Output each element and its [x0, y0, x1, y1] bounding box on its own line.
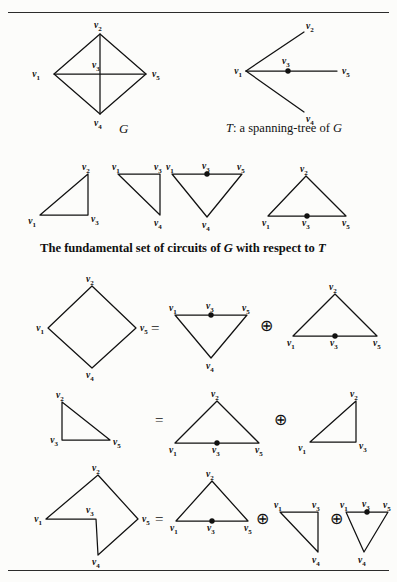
label-v5: v5: [342, 66, 350, 79]
label-v1: v1: [170, 523, 178, 536]
label-v5: v5: [242, 303, 250, 316]
graph-g-diamond: v2 v1 v3 v5 v4: [42, 16, 162, 126]
label-v4: v4: [358, 555, 366, 568]
equation-1-ringsum: ⊕: [260, 318, 273, 334]
triangle-outline: [310, 401, 356, 442]
caption-fs-t: T: [318, 241, 326, 255]
bottom-horizontal-rule: [8, 570, 389, 571]
label-v5: v5: [140, 323, 148, 336]
triangle-outline: [40, 174, 88, 215]
caption-fs-part-b: with respect to: [233, 241, 318, 255]
label-v5: v5: [152, 69, 160, 82]
equation-3-ringsum-1: ⊕: [256, 511, 269, 527]
label-v3: v3: [154, 162, 162, 175]
caption-spanning-tree: T: a spanning-tree of G: [226, 121, 342, 136]
label-v1: v1: [234, 66, 242, 79]
label-v1: v1: [340, 500, 348, 513]
label-v2: v2: [86, 274, 94, 287]
triangle-outline: [118, 174, 160, 215]
caption-t-text: : a spanning-tree of: [233, 121, 333, 135]
label-v3: v3: [91, 214, 99, 227]
figure-page: v2 v1 v3 v5 v4 G v2 v1 v3 v5 v4 T: a spa…: [0, 0, 397, 582]
label-v5: v5: [113, 437, 121, 450]
label-v2: v2: [306, 21, 314, 34]
label-v1: v1: [112, 162, 120, 175]
triangle-outline: [172, 174, 242, 217]
label-v3: v3: [330, 338, 338, 351]
node-dot-v3: [285, 68, 290, 73]
caption-fundamental-set: The fundamental set of circuits of G wit…: [40, 241, 326, 256]
caption-graph-g: G: [119, 121, 128, 137]
equation-3-term-1: v2 v1 v3 v5: [168, 469, 254, 543]
label-v3: v3: [282, 56, 290, 69]
label-v2: v2: [206, 469, 214, 482]
equation-3-term-3: v1 v3 v5 v4: [302, 498, 394, 568]
label-v1: v1: [169, 303, 177, 316]
label-v3: v3: [86, 505, 94, 518]
label-v2: v2: [350, 389, 358, 402]
equation-1-equals: =: [151, 321, 159, 336]
label-v4: v4: [94, 118, 102, 131]
label-v3: v3: [302, 218, 310, 231]
label-v3: v3: [206, 301, 214, 314]
label-v1: v1: [298, 443, 306, 456]
label-v4: v4: [154, 218, 162, 231]
label-v3: v3: [92, 60, 100, 73]
label-v5: v5: [244, 523, 252, 536]
label-v4: v4: [206, 361, 214, 374]
label-v4: v4: [202, 220, 210, 233]
triangle-outline: [268, 176, 346, 216]
label-v3: v3: [212, 445, 220, 458]
top-horizontal-rule: [8, 12, 389, 13]
label-v3: v3: [207, 523, 215, 536]
fundamental-circuit-1: v2 v1 v3: [30, 160, 112, 228]
caption-fs-g: G: [224, 241, 233, 255]
label-v5: v5: [142, 514, 150, 527]
equation-2-term-2: v2 v1 v3: [298, 387, 378, 459]
label-v2: v2: [329, 282, 337, 295]
caption-fs-part-a: The fundamental set of circuits of: [40, 241, 224, 255]
caption-t-symbol: T: [226, 121, 233, 135]
diamond-outline: [48, 286, 136, 368]
label-v3: v3: [202, 161, 210, 174]
label-v2: v2: [94, 20, 102, 33]
equation-2-ringsum: ⊕: [274, 412, 287, 428]
triangle-outline: [175, 401, 259, 443]
label-v1: v1: [262, 218, 270, 231]
equation-1-lhs-diamond: v2 v1 v5 v4: [38, 272, 148, 376]
triangle-outline: [176, 481, 248, 521]
equation-1-term-1: v1 v3 v5 v4: [167, 290, 257, 368]
equation-1-term-2: v2 v1 v3 v5: [283, 280, 387, 360]
label-v1: v1: [169, 445, 177, 458]
label-v5: v5: [255, 445, 263, 458]
equation-2-equals: =: [155, 413, 163, 428]
spanning-tree-t: v2 v1 v3 v5 v4: [232, 16, 362, 126]
label-v1: v1: [166, 162, 174, 175]
triangle-outline: [346, 512, 388, 552]
edge-v1-v4: [246, 71, 304, 112]
equation-2-term-1: v2 v1 v3 v5: [165, 387, 269, 459]
label-v5: v5: [373, 338, 381, 351]
label-v5: v5: [237, 162, 245, 175]
label-v2: v2: [82, 162, 90, 175]
label-v5: v5: [342, 218, 350, 231]
label-v3: v3: [359, 441, 367, 454]
equation-3-equals: =: [155, 512, 163, 527]
label-v1: v1: [28, 216, 36, 229]
equation-2-lhs-triangle: v2 v3 v5: [42, 388, 122, 454]
fundamental-circuit-4: v2 v1 v3 v5: [258, 160, 358, 230]
label-v3: v3: [362, 499, 370, 512]
label-v5: v5: [383, 500, 391, 513]
triangle-outline: [175, 315, 247, 358]
label-v4: v4: [92, 557, 100, 570]
label-v2: v2: [300, 164, 308, 177]
label-v2: v2: [56, 390, 64, 403]
fundamental-circuit-3: v1 v3 v5 v4: [164, 160, 250, 230]
label-v2: v2: [92, 463, 100, 476]
label-v2: v2: [211, 389, 219, 402]
triangle-outline: [293, 294, 377, 336]
label-v1: v1: [36, 323, 44, 336]
label-v1: v1: [287, 338, 295, 351]
label-v1: v1: [34, 514, 42, 527]
triangle-outline: [62, 402, 110, 440]
